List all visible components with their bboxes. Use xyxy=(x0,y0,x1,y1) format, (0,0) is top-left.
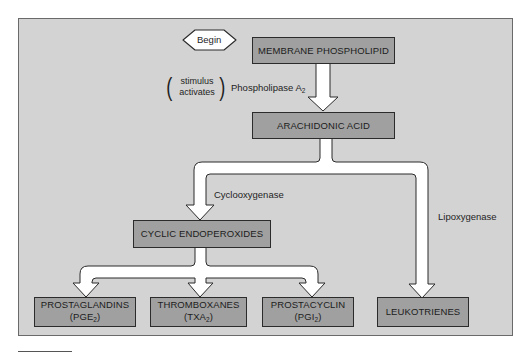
arrow-membrane-to-arachidonic xyxy=(308,63,338,111)
node-label: CYCLIC ENDOPEROXIDES xyxy=(141,228,263,240)
node-label: THROMBOXANES xyxy=(158,299,240,311)
node-label: PROSTAGLANDINS xyxy=(41,299,129,311)
edge-label-cyclooxygenase: Cyclooxygenase xyxy=(214,189,284,200)
arrow-cyclic-branch xyxy=(73,247,325,297)
left-paren: ( xyxy=(166,74,172,100)
node-label: ARACHIDONIC ACID xyxy=(277,120,370,132)
node-label: MEMBRANE PHOSPHOLIPID xyxy=(258,45,389,57)
node-prostaglandins: PROSTAGLANDINS (PGE2) xyxy=(34,297,136,327)
node-prostacyclin: PROSTACYCLIN (PGI2) xyxy=(262,297,354,327)
activates-text: activates xyxy=(175,87,219,98)
stimulus-text: stimulus xyxy=(175,76,219,87)
right-paren: ) xyxy=(219,74,225,100)
node-label: PROSTACYCLIN xyxy=(271,299,345,311)
node-thromboxanes: THROMBOXANES (TXA2) xyxy=(150,297,247,327)
stimulus-note: stimulus activates xyxy=(175,76,219,98)
footnote-rule xyxy=(18,351,72,352)
node-abbr: (TXA2) xyxy=(184,311,213,326)
node-cyclic-endoperoxides: CYCLIC ENDOPEROXIDES xyxy=(133,220,271,248)
node-arachidonic-acid: ARACHIDONIC ACID xyxy=(252,112,395,139)
node-leukotrienes: LEUKOTRIENES xyxy=(377,297,469,327)
node-abbr: (PGE2) xyxy=(70,311,101,326)
node-abbr: (PGI2) xyxy=(295,311,322,326)
edge-label-phospholipase: Phospholipase A2 xyxy=(231,82,305,94)
node-label: LEUKOTRIENES xyxy=(386,306,461,318)
begin-label: Begin xyxy=(197,34,221,45)
edge-label-lipoxygenase: Lipoxygenase xyxy=(438,211,497,222)
node-membrane-phospholipid: MEMBRANE PHOSPHOLIPID xyxy=(252,37,395,64)
